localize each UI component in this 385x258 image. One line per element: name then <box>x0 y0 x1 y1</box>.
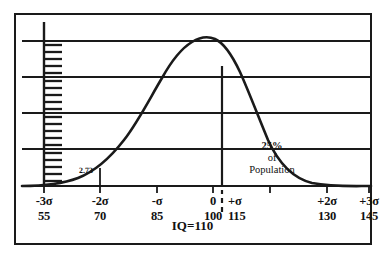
normal-distribution-curve <box>22 37 371 186</box>
percent-population-annotation: 25% of Population <box>226 140 318 175</box>
iq-caption: IQ=110 <box>0 218 385 234</box>
annotation-2-73: 2.73 <box>79 166 93 175</box>
x-label-sigma: +2σ <box>303 194 351 209</box>
x-label-sigma: -σ <box>133 194 181 209</box>
figure-container: 2.73 25% of Population -3σ 55 -2σ 70 -σ … <box>0 0 385 258</box>
x-label-sigma: -3σ <box>20 194 68 209</box>
x-label-sigma: +3σ <box>345 194 385 209</box>
x-axis-ticks <box>44 186 369 193</box>
x-label-sigma: +σ <box>228 194 276 209</box>
percent-population-word: Population <box>226 164 318 176</box>
percent-value: 25% <box>226 140 318 152</box>
percent-of-word: of <box>226 152 318 164</box>
gridlines <box>22 41 371 149</box>
x-label-sigma: -2σ <box>76 194 124 209</box>
